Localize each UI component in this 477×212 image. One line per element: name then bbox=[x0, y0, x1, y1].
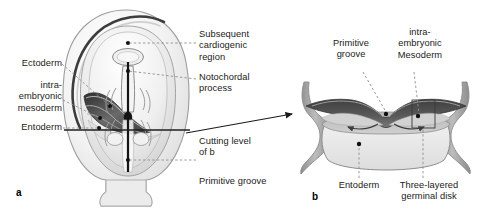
dot-notochordal bbox=[126, 69, 130, 73]
label-notochordal-process: Notochordal process bbox=[199, 72, 277, 95]
label-intraembryonic-mesoderm-b: intra- embryonic Mesoderm bbox=[387, 27, 453, 61]
label-primitive-groove-a: Primitive groove bbox=[199, 176, 289, 187]
panel-letter-b: b bbox=[312, 191, 318, 202]
cardiogenic-region-inner bbox=[117, 52, 139, 63]
dot-entoderm-b bbox=[357, 142, 361, 146]
panel-letter-a: a bbox=[16, 187, 22, 198]
caudal-bulge-right bbox=[133, 133, 149, 146]
dot-mesoderm bbox=[98, 116, 102, 120]
panel-b-artwork bbox=[301, 82, 471, 174]
label-three-layered-germinal-disk: Three-layered germinal disk bbox=[390, 180, 468, 203]
caudal-bulge-left bbox=[107, 133, 123, 146]
cutting-level-arrow bbox=[186, 114, 292, 133]
label-ectoderm: Ectoderm bbox=[6, 58, 62, 69]
label-entoderm-a: Entoderm bbox=[4, 122, 62, 133]
panel-a-artwork bbox=[63, 10, 190, 206]
figure-embryonic-germ-disk: Ectoderm intra- embryonic mesoderm Entod… bbox=[0, 0, 477, 212]
connecting-stalk bbox=[100, 180, 152, 206]
label-entoderm-b: Entoderm bbox=[330, 180, 388, 191]
label-primitive-groove-b: Primitive groove bbox=[322, 38, 380, 61]
label-cutting-level-of-b: Cutting level of b bbox=[199, 136, 277, 159]
dot-mesoderm-b bbox=[416, 114, 420, 118]
dot-primitive-groove-b bbox=[384, 112, 388, 116]
label-subsequent-cardiogenic-region: Subsequent cardiogenic region bbox=[199, 29, 277, 63]
label-intraembryonic-mesoderm-a: intra- embryonic mesoderm bbox=[2, 80, 62, 114]
